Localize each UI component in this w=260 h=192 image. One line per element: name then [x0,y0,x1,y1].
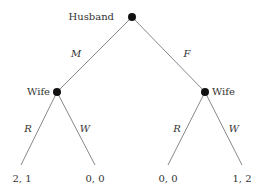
node-left [53,88,61,96]
node-root [128,13,136,21]
payoff-3: 0, 0 [158,173,177,184]
node-right-label: Wife [212,86,235,97]
payoff-2: 0, 0 [85,173,104,184]
edge-label-r-left: R [23,123,32,134]
node-left-label: Wife [27,86,50,97]
edge-label-m: M [70,48,82,59]
edge-label-w-left: W [80,123,91,134]
edge-label-r-right: R [172,123,181,134]
edge-label-f: F [183,48,192,59]
payoff-1: 2, 1 [12,173,31,184]
game-tree: Husband Wife Wife M F R W R W 2, 1 0, 0 … [0,0,260,192]
payoff-4: 1, 2 [232,173,251,184]
edge-label-w-right: W [229,123,240,134]
node-right [201,88,209,96]
edge-root-right [132,17,205,92]
node-root-label: Husband [69,11,115,22]
edge-root-left [57,17,132,92]
